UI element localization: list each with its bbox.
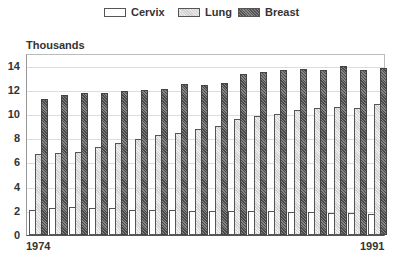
bar-breast-1990 bbox=[360, 70, 367, 235]
lung-swatch-icon bbox=[178, 8, 200, 17]
y-tick-label: 8 bbox=[0, 132, 20, 144]
bar-breast-1976 bbox=[81, 93, 88, 235]
bar-breast-1983 bbox=[221, 83, 228, 235]
y-tick-label: 12 bbox=[0, 84, 20, 96]
bar-breast-1991 bbox=[380, 68, 387, 235]
x-label-first: 1974 bbox=[26, 240, 50, 252]
plot-area bbox=[26, 54, 385, 236]
cervix-swatch-icon bbox=[104, 8, 126, 17]
legend-item-lung: Lung bbox=[178, 6, 232, 18]
legend-item-cervix: Cervix bbox=[104, 6, 165, 18]
bar-breast-1989 bbox=[340, 66, 347, 235]
legend-label: Cervix bbox=[131, 6, 165, 18]
breast-swatch-icon bbox=[238, 8, 260, 17]
bar-breast-1988 bbox=[320, 70, 327, 235]
y-tick-label: 0 bbox=[0, 229, 20, 241]
bar-breast-1981 bbox=[181, 84, 188, 235]
bar-breast-1985 bbox=[260, 72, 267, 235]
gridline bbox=[27, 67, 384, 68]
bar-breast-1984 bbox=[240, 74, 247, 235]
y-tick-label: 14 bbox=[0, 60, 20, 72]
y-tick-label: 2 bbox=[0, 205, 20, 217]
bar-breast-1978 bbox=[121, 91, 128, 235]
bar-breast-1977 bbox=[101, 93, 108, 235]
legend-item-breast: Breast bbox=[238, 6, 299, 18]
bar-breast-1986 bbox=[280, 70, 287, 235]
bar-breast-1982 bbox=[201, 85, 208, 235]
bar-breast-1980 bbox=[161, 89, 168, 235]
y-tick-label: 10 bbox=[0, 108, 20, 120]
legend-label: Lung bbox=[205, 6, 232, 18]
legend: Cervix Lung Breast bbox=[0, 6, 397, 22]
bar-breast-1975 bbox=[61, 95, 68, 235]
y-tick-label: 4 bbox=[0, 181, 20, 193]
y-tick-label: 6 bbox=[0, 156, 20, 168]
bar-breast-1974 bbox=[41, 99, 48, 235]
bar-breast-1979 bbox=[141, 90, 148, 235]
legend-label: Breast bbox=[265, 6, 299, 18]
x-label-last: 1991 bbox=[360, 240, 384, 252]
bar-breast-1987 bbox=[300, 69, 307, 235]
y-axis-label: Thousands bbox=[26, 39, 85, 51]
